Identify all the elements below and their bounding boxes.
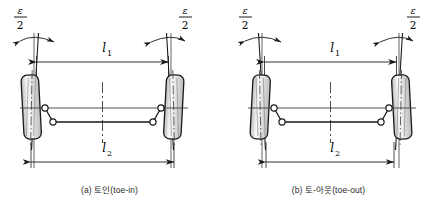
tire-right-b [391, 75, 412, 140]
dim-l2-subscript: 2 [107, 149, 112, 158]
pivot-joint [386, 105, 392, 111]
epsilon-numerator: ε [182, 5, 187, 16]
pivot-joint [42, 105, 48, 111]
dim-l1-subscript: 1 [107, 49, 112, 58]
toe-alignment-diagram: ε 2 ε 2 l 1 [0, 0, 438, 212]
dim-l1-symbol: l [102, 41, 106, 55]
dim-l2-subscript: 2 [335, 149, 340, 158]
epsilon-denominator: 2 [17, 19, 24, 31]
pivot-joint [378, 119, 384, 125]
figure-canvas: ε 2 ε 2 l 1 [0, 0, 438, 212]
dim-l2-symbol: l [330, 141, 334, 155]
pivot-joint [279, 119, 285, 125]
dim-l1-symbol: l [330, 41, 334, 55]
caption-toe-out: (b) 토-아웃(toe-out) [219, 183, 438, 195]
caption-toe-in: (a) 토인(toe-in) [0, 183, 219, 195]
pivot-joint [271, 105, 277, 111]
pivot-joint [50, 119, 56, 125]
epsilon-numerator: ε [17, 5, 22, 16]
epsilon-denominator: 2 [410, 19, 417, 31]
dim-l1-subscript: 1 [335, 49, 340, 58]
pivot-joint [150, 119, 156, 125]
background [0, 0, 438, 212]
pivot-joint [158, 105, 164, 111]
dim-l2-symbol: l [102, 141, 106, 155]
epsilon-denominator: 2 [182, 19, 189, 31]
epsilon-numerator: ε [410, 5, 415, 16]
epsilon-numerator: ε [242, 5, 247, 16]
epsilon-denominator: 2 [242, 19, 249, 31]
